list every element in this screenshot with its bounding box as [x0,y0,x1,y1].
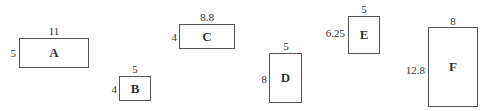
rectangle-d-height: 8 [262,74,268,85]
rectangle-e-width: 5 [361,4,367,15]
rectangle-c-width: 8.8 [200,12,214,23]
rectangle-b: B [119,76,151,101]
rectangle-a-height: 5 [11,48,17,59]
rectangle-f-label: F [449,59,457,75]
rectangle-c-height: 4 [172,32,178,43]
rectangle-f: F [428,27,478,107]
rectangle-d-width: 5 [283,41,289,52]
rectangle-c-label: C [202,29,211,45]
rectangle-d-label: D [281,70,290,86]
rectangle-e-height: 6.25 [326,28,345,39]
rectangle-d: D [269,53,302,103]
rectangle-a-width: 11 [49,26,60,37]
rectangle-e: E [348,16,380,54]
rectangle-e-label: E [360,27,369,43]
rectangle-c: C [179,24,235,49]
rectangle-b-width: 5 [132,64,138,75]
rectangle-b-label: B [131,81,140,97]
rectangle-a: A [19,38,89,68]
rectangle-f-width: 8 [450,16,456,27]
rectangle-b-height: 4 [112,84,118,95]
rectangle-f-height: 12.8 [406,65,425,76]
rectangle-a-label: A [49,45,58,61]
